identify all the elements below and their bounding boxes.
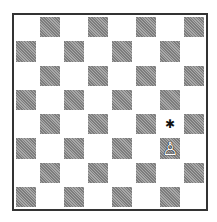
square-g3[interactable]: ♙ xyxy=(158,136,182,160)
square-h8[interactable] xyxy=(182,15,206,39)
square-e6[interactable] xyxy=(110,64,134,88)
square-g2[interactable] xyxy=(158,161,182,185)
square-a1[interactable] xyxy=(14,185,38,209)
square-h6[interactable] xyxy=(182,64,206,88)
square-h3[interactable] xyxy=(182,136,206,160)
square-b8[interactable] xyxy=(38,15,62,39)
square-c6[interactable] xyxy=(62,64,86,88)
square-e1[interactable] xyxy=(110,185,134,209)
square-d6[interactable] xyxy=(86,64,110,88)
square-c7[interactable] xyxy=(62,39,86,63)
square-c3[interactable] xyxy=(62,136,86,160)
square-e4[interactable] xyxy=(110,112,134,136)
square-a6[interactable] xyxy=(14,64,38,88)
square-d8[interactable] xyxy=(86,15,110,39)
square-h1[interactable] xyxy=(182,185,206,209)
square-b4[interactable] xyxy=(38,112,62,136)
square-c2[interactable] xyxy=(62,161,86,185)
square-d5[interactable] xyxy=(86,88,110,112)
star-marker-icon: ✱ xyxy=(158,112,182,136)
square-a3[interactable] xyxy=(14,136,38,160)
square-b7[interactable] xyxy=(38,39,62,63)
square-f6[interactable] xyxy=(134,64,158,88)
square-f8[interactable] xyxy=(134,15,158,39)
square-b5[interactable] xyxy=(38,88,62,112)
white-pawn-icon[interactable]: ♙ xyxy=(158,136,182,160)
square-f2[interactable] xyxy=(134,161,158,185)
square-e5[interactable] xyxy=(110,88,134,112)
square-g8[interactable] xyxy=(158,15,182,39)
square-c5[interactable] xyxy=(62,88,86,112)
square-b1[interactable] xyxy=(38,185,62,209)
square-a4[interactable] xyxy=(14,112,38,136)
square-f3[interactable] xyxy=(134,136,158,160)
square-h4[interactable] xyxy=(182,112,206,136)
square-c1[interactable] xyxy=(62,185,86,209)
square-f1[interactable] xyxy=(134,185,158,209)
square-f5[interactable] xyxy=(134,88,158,112)
square-b2[interactable] xyxy=(38,161,62,185)
square-b3[interactable] xyxy=(38,136,62,160)
square-a7[interactable] xyxy=(14,39,38,63)
square-b6[interactable] xyxy=(38,64,62,88)
square-d7[interactable] xyxy=(86,39,110,63)
square-g6[interactable] xyxy=(158,64,182,88)
square-d1[interactable] xyxy=(86,185,110,209)
square-d4[interactable] xyxy=(86,112,110,136)
square-d3[interactable] xyxy=(86,136,110,160)
square-e8[interactable] xyxy=(110,15,134,39)
square-h2[interactable] xyxy=(182,161,206,185)
board-grid: ✱♙ xyxy=(14,15,206,209)
square-c8[interactable] xyxy=(62,15,86,39)
square-e2[interactable] xyxy=(110,161,134,185)
square-a8[interactable] xyxy=(14,15,38,39)
square-f7[interactable] xyxy=(134,39,158,63)
square-g4[interactable]: ✱ xyxy=(158,112,182,136)
square-f4[interactable] xyxy=(134,112,158,136)
square-a2[interactable] xyxy=(14,161,38,185)
square-h7[interactable] xyxy=(182,39,206,63)
square-c4[interactable] xyxy=(62,112,86,136)
square-a5[interactable] xyxy=(14,88,38,112)
square-e7[interactable] xyxy=(110,39,134,63)
square-g7[interactable] xyxy=(158,39,182,63)
chess-board: ✱♙ xyxy=(12,13,208,211)
square-d2[interactable] xyxy=(86,161,110,185)
square-e3[interactable] xyxy=(110,136,134,160)
square-g1[interactable] xyxy=(158,185,182,209)
square-g5[interactable] xyxy=(158,88,182,112)
square-h5[interactable] xyxy=(182,88,206,112)
